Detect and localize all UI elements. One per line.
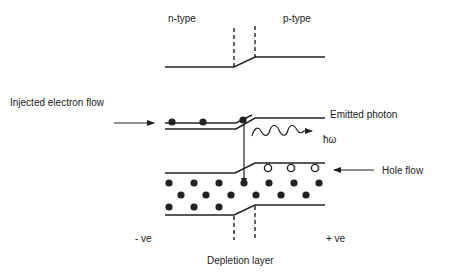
holes [264,164,318,171]
conduction-electrons [168,116,246,125]
valence-band-bottom-edge [165,205,325,215]
negative-terminal-label: - ve [135,233,152,244]
valence-electrons [165,179,322,210]
band-diagram: n-type p-type Injected electron flow Emi… [0,0,450,279]
depletion-layer-label: Depletion layer [207,255,274,266]
photon-wave-icon [252,126,312,137]
photon-energy-label: ħω [323,134,337,145]
hole-flow-label: Hole flow [382,165,424,176]
conduction-band-top-edge [165,57,325,67]
n-type-label: n-type [168,13,196,24]
electron-flow-line [165,115,252,123]
positive-terminal-label: + ve [326,233,346,244]
emitted-photon-label: Emitted photon [330,109,397,120]
p-type-label: p-type [283,13,311,24]
valence-band-top-edge [165,163,325,173]
injected-electron-flow-label: Injected electron flow [10,97,105,108]
